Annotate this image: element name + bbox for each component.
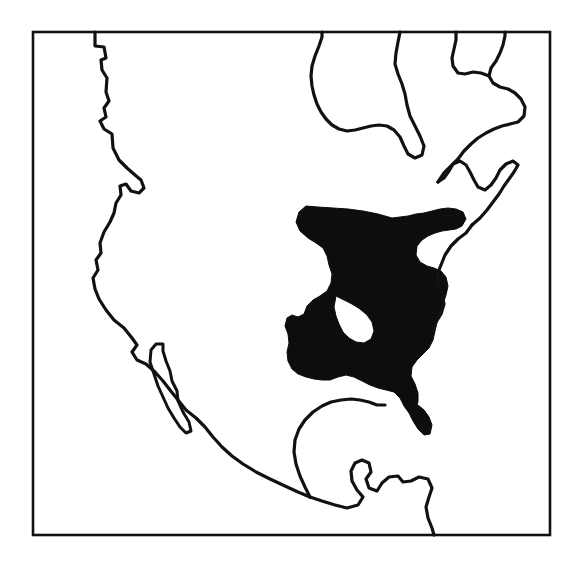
range-map-figure [0,0,577,562]
map-background [0,0,577,562]
map-canvas [0,0,577,562]
